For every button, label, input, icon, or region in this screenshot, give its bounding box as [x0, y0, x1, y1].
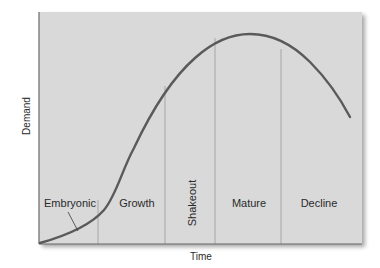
y-axis-label: Demand [21, 97, 32, 135]
stage-label-decline: Decline [301, 197, 338, 209]
plot-area [39, 12, 362, 244]
industry-life-cycle-chart: Embryonic Growth Shakeout Mature Decline… [0, 0, 380, 268]
stage-label-embryonic: Embryonic [44, 197, 96, 209]
stage-label-growth: Growth [119, 197, 154, 209]
x-axis-label: Time [190, 251, 212, 262]
stage-label-mature: Mature [232, 197, 266, 209]
stage-label-shakeout: Shakeout [186, 180, 198, 226]
